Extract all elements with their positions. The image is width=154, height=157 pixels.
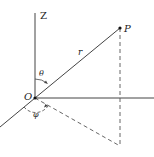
spherical-coordinates-diagram: Z O P r θ φ <box>0 0 154 157</box>
radius-vector <box>35 28 120 98</box>
origin-point <box>33 96 36 99</box>
radius-label: r <box>78 47 83 57</box>
x-axis <box>0 98 35 127</box>
z-axis-label: Z <box>40 10 47 21</box>
projection-plane <box>35 98 120 146</box>
phi-label: φ <box>33 110 39 119</box>
theta-label: θ <box>39 69 44 78</box>
point-p <box>118 26 121 29</box>
point-label: P <box>123 23 131 34</box>
origin-label: O <box>24 91 32 102</box>
